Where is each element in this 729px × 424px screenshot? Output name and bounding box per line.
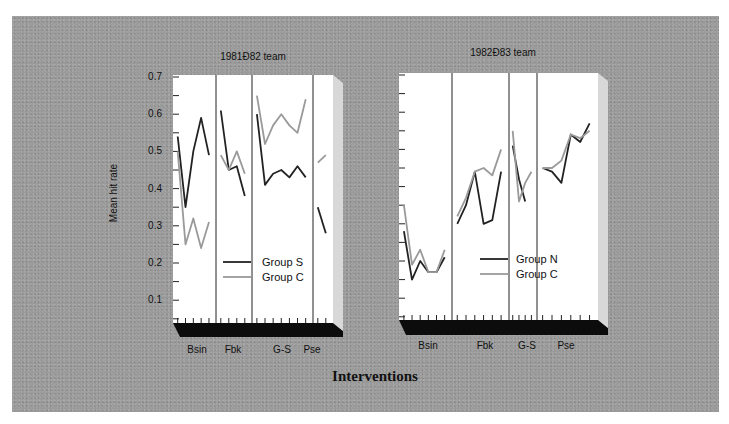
y-tick-label: 0.4 — [148, 183, 162, 194]
y-tick-label: 0.3 — [148, 220, 162, 231]
y-tick-label: 0.1 — [148, 294, 162, 305]
y-tick-label: 0.6 — [148, 108, 162, 119]
phase-label: Pse — [557, 340, 575, 351]
legend-label-group-c: Group C — [262, 271, 304, 283]
right-plot-area — [399, 73, 598, 320]
phase-label: Bsin — [187, 344, 206, 355]
y-tick-label: 0.7 — [148, 71, 162, 82]
left-panel-base — [173, 323, 343, 337]
phase-label: Fbk — [225, 344, 243, 355]
right-panel: Group N Group C 1982Ð83 team BsinFbkG-SP… — [399, 47, 610, 351]
x-axis-title: Interventions — [332, 368, 418, 384]
phase-label: Bsin — [418, 340, 437, 351]
phase-label: G-S — [518, 340, 536, 351]
left-panel: Group S Group C 1981Ð82 team 0.70.60.50.… — [148, 51, 343, 355]
right-chart-title: 1982Ð83 team — [470, 47, 536, 58]
chart-canvas: Group S Group C 1981Ð82 team 0.70.60.50.… — [0, 0, 729, 424]
y-tick-label: 0.2 — [148, 257, 162, 268]
legend-label-group-c: Group C — [516, 268, 558, 280]
left-plot-area — [173, 75, 333, 323]
right-panel-base — [399, 320, 608, 335]
phase-label: Pse — [303, 344, 321, 355]
phase-label: G-S — [273, 344, 291, 355]
legend-label-group-s: Group S — [262, 256, 303, 268]
left-chart-title: 1981Ð82 team — [220, 51, 286, 62]
y-axis-label: Mean hit rate — [108, 163, 119, 222]
legend-label-group-n: Group N — [516, 253, 558, 265]
y-tick-label: 0.5 — [148, 145, 162, 156]
phase-label: Fbk — [477, 340, 495, 351]
